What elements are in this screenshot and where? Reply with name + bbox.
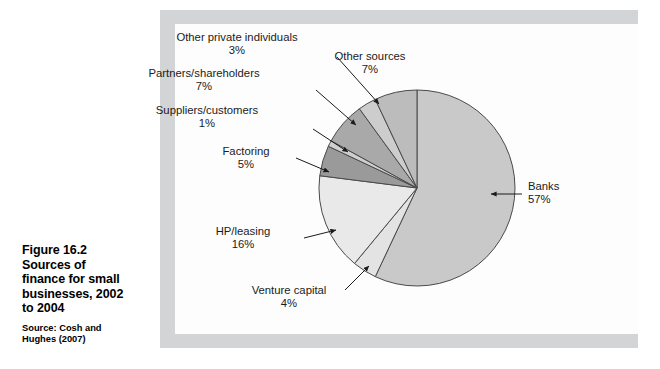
slice-label-percent: 7% [148, 80, 259, 93]
pie-slices [319, 90, 515, 286]
slice-label-name: Other private individuals [176, 31, 297, 43]
slice-label-name: Factoring [222, 145, 269, 157]
slice-label-partners-shareholders: Partners/shareholders7% [148, 67, 259, 94]
slice-label-percent: 3% [176, 44, 297, 57]
pie-chart-svg [0, 0, 660, 369]
slice-label-hp-leasing: HP/leasing16% [216, 225, 271, 252]
slice-label-name: Venture capital [252, 284, 327, 296]
slice-label-name: Suppliers/customers [156, 104, 258, 116]
slice-label-venture-capital: Venture capital4% [252, 284, 327, 311]
slice-label-percent: 5% [222, 158, 269, 171]
pie-chart: Banks57%Venture capital4%HP/leasing16%Fa… [0, 0, 660, 369]
leader-line [345, 266, 369, 290]
slice-label-other-private-individuals: Other private individuals3% [176, 31, 297, 58]
slice-label-factoring: Factoring5% [222, 145, 269, 172]
slice-label-name: Banks [528, 180, 559, 192]
slice-label-name: Partners/shareholders [148, 67, 259, 79]
leader-line [316, 90, 356, 125]
slice-label-name: HP/leasing [216, 225, 271, 237]
slice-label-suppliers-customers: Suppliers/customers1% [156, 104, 258, 131]
slice-label-banks: Banks57% [528, 180, 559, 207]
slice-label-percent: 57% [528, 193, 559, 206]
slice-label-name: Other sources [335, 50, 406, 62]
slice-label-percent: 1% [156, 117, 258, 130]
slice-label-percent: 7% [335, 63, 406, 76]
slice-label-percent: 16% [216, 238, 271, 251]
slice-label-percent: 4% [252, 297, 327, 310]
slice-label-other-sources: Other sources7% [335, 50, 406, 77]
